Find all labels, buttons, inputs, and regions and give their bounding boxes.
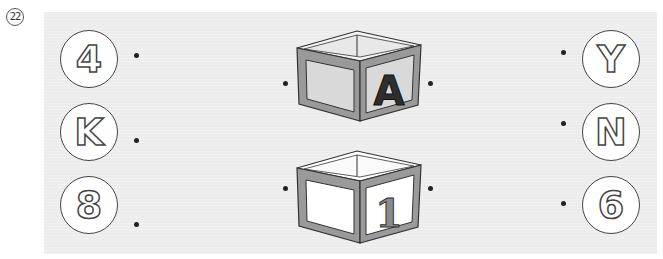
block-a-icon: A — [294, 28, 424, 124]
letter-block-a: A — [294, 28, 424, 124]
right-choice-label: N — [595, 113, 627, 151]
svg-text:1: 1 — [375, 189, 403, 236]
right-dot-3[interactable] — [561, 201, 566, 206]
block-a-right-dot[interactable] — [428, 81, 433, 86]
block-1-left-dot[interactable] — [283, 186, 288, 191]
left-choice-2[interactable]: K — [60, 103, 118, 161]
left-choice-label: K — [74, 113, 103, 151]
left-choice-label: 4 — [76, 40, 102, 78]
question-number: 22 — [6, 8, 24, 26]
right-dot-1[interactable] — [561, 50, 566, 55]
block-a-left-dot[interactable] — [283, 81, 288, 86]
number-block-1: 1 — [294, 148, 424, 246]
left-choice-label: 8 — [76, 186, 102, 224]
left-choice-3[interactable]: 8 — [60, 176, 118, 234]
left-dot-1[interactable] — [134, 53, 139, 58]
right-choice-label: Y — [597, 40, 625, 78]
right-choice-3[interactable]: 6 — [582, 176, 640, 234]
left-dot-3[interactable] — [134, 222, 139, 227]
svg-text:A: A — [374, 68, 405, 114]
block-1-icon: 1 — [294, 148, 424, 246]
left-dot-2[interactable] — [134, 138, 139, 143]
right-choice-2[interactable]: N — [582, 103, 640, 161]
block-1-right-dot[interactable] — [428, 186, 433, 191]
right-dot-2[interactable] — [561, 121, 566, 126]
left-choice-1[interactable]: 4 — [60, 30, 118, 88]
right-choice-label: 6 — [598, 186, 624, 224]
right-choice-1[interactable]: Y — [582, 30, 640, 88]
